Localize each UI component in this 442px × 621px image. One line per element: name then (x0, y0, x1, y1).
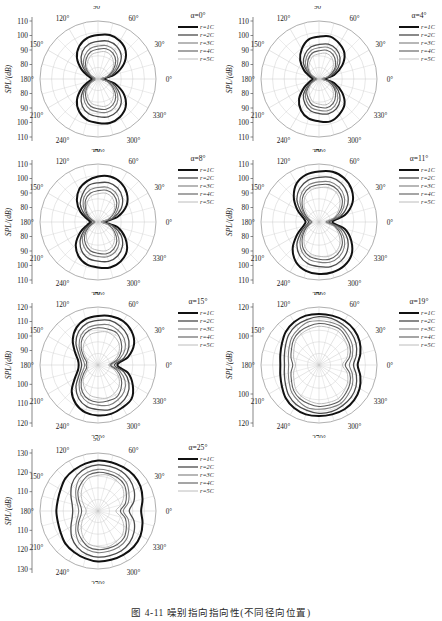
radial-tick-label: 90 (242, 104, 250, 113)
angle-tick-label: 300° (348, 280, 362, 288)
legend-label: r=2C (200, 174, 215, 181)
angle-tick-label: 0° (166, 362, 173, 370)
legend-label: r=2C (200, 31, 215, 38)
legend-label: r=3C (200, 471, 215, 478)
legend-label: r=5C (421, 55, 436, 62)
radial-tick-label: 80 (21, 60, 29, 69)
radial-tick-label: 90 (242, 189, 250, 198)
legend-label: r=1C (421, 166, 436, 173)
legend-label: r=4C (421, 47, 436, 54)
radial-tick-label: 90 (21, 104, 29, 113)
polar-grid (40, 164, 156, 280)
legend-label: r=5C (421, 198, 436, 205)
legend: r=1Cr=2Cr=3Cr=4Cr=5C (399, 23, 436, 62)
radial-tick-label: 100 (17, 31, 28, 40)
legend-label: r=3C (421, 39, 436, 46)
radial-tick-label: 90 (21, 346, 29, 355)
radial-tick-label: 120 (17, 545, 28, 554)
angle-tick-label: 330° (153, 255, 167, 263)
angle-tick-label: 120° (56, 158, 70, 166)
radial-tick-label: 120 (17, 303, 28, 312)
legend-label: r=5C (200, 198, 215, 205)
subplot-title: α=25° (189, 443, 208, 452)
subplot-title: α=11° (410, 154, 429, 163)
polar-grid (261, 307, 377, 423)
radial-tick-label: 90 (21, 46, 29, 55)
radial-tick-label: 110 (17, 526, 28, 535)
polar-plot: 0°30°60°90°120°150°180°210°240°270°300°3… (223, 6, 442, 152)
radial-tick-label: 80 (242, 89, 250, 98)
angle-tick-label: 0° (166, 76, 173, 84)
radial-tick-label: 80 (21, 203, 29, 212)
subplot-title: α=4° (411, 11, 426, 20)
radial-tick-label: 110 (17, 399, 28, 408)
angle-tick-label: 0° (387, 76, 394, 84)
angle-tick-label: 120° (56, 15, 70, 23)
legend: r=1Cr=2Cr=3Cr=4Cr=5C (178, 309, 215, 348)
legend-label: r=1C (421, 23, 436, 30)
radial-tick-label: 110 (17, 276, 28, 285)
legend-label: r=2C (421, 317, 436, 324)
angle-tick-label: 300° (127, 423, 141, 431)
radial-tick-label: 100 (238, 390, 249, 399)
angle-tick-label: 90° (93, 292, 103, 297)
legend-label: r=2C (200, 317, 215, 324)
legend-label: r=4C (421, 333, 436, 340)
legend-label: r=1C (200, 166, 215, 173)
legend-label: r=2C (421, 31, 436, 38)
y-axis-title: SPL/(dB) (4, 207, 13, 236)
data-series-group (293, 171, 353, 274)
radial-tick-label: 90 (242, 46, 250, 55)
angle-tick-label: 240° (56, 423, 70, 431)
polar-plot: 0°30°60°90°120°150°180°210°240°270°300°3… (223, 149, 442, 295)
legend-label: r=4C (200, 190, 215, 197)
angle-tick-label: 30° (154, 473, 164, 481)
radial-tick-label: 80 (21, 232, 29, 241)
radial-tick-label: 100 (238, 261, 249, 270)
angle-tick-label: 240° (56, 137, 70, 145)
radial-tick-label: 110 (17, 487, 28, 496)
legend-label: r=1C (200, 309, 215, 316)
legend-label: r=3C (421, 182, 436, 189)
angle-tick-label: 120° (277, 158, 291, 166)
polar-plot: 0°30°60°90°120°150°180°210°240°270°300°3… (2, 6, 223, 152)
angle-tick-label: 60° (128, 447, 138, 455)
angle-tick-label: 240° (277, 137, 291, 145)
angle-tick-label: 270° (312, 435, 326, 438)
angle-tick-label: 60° (128, 15, 138, 23)
legend-label: r=3C (200, 182, 215, 189)
y-axis-title: SPL/(dB) (4, 496, 13, 525)
angle-tick-label: 90° (314, 292, 324, 297)
radial-tick-label: 110 (17, 133, 28, 142)
angle-tick-label: 30° (154, 327, 164, 335)
legend-label: r=4C (200, 479, 215, 486)
radial-tick-label: 100 (238, 332, 249, 341)
radial-tick-label: 90 (242, 247, 250, 256)
subplot-title: α=19° (410, 297, 429, 306)
radial-tick-label: 90 (21, 247, 29, 256)
radial-tick-label: 110 (17, 17, 28, 26)
legend-label: r=1C (200, 455, 215, 462)
legend: r=1Cr=2Cr=3Cr=4Cr=5C (178, 23, 215, 62)
radial-tick-label: 120 (17, 419, 28, 428)
angle-tick-label: 330° (374, 398, 388, 406)
angle-tick-label: 30° (375, 41, 385, 49)
polar-chart-panel: 0°30°60°90°120°150°180°210°240°270°300°3… (2, 292, 223, 438)
radial-tick-label: 120 (17, 468, 28, 477)
radial-tick-label: 110 (17, 160, 28, 169)
polar-chart-panel: 0°30°60°90°120°150°180°210°240°270°300°3… (2, 149, 223, 295)
angle-tick-label: 0° (387, 362, 394, 370)
figure-sheet: 图 4-11 噪别指向指向性(不同径向位置) 0°30°60°90°120°15… (0, 0, 442, 621)
radial-tick-label: 100 (238, 118, 249, 127)
legend-label: r=3C (421, 325, 436, 332)
angle-tick-label: 120° (277, 15, 291, 23)
legend-label: r=1C (200, 23, 215, 30)
angle-tick-label: 300° (127, 569, 141, 577)
angle-tick-label: 60° (349, 15, 359, 23)
radial-tick-label: 110 (17, 317, 28, 326)
polar-plot: 0°30°60°90°120°150°180°210°240°270°300°3… (2, 438, 223, 584)
angle-tick-label: 330° (374, 255, 388, 263)
angle-tick-label: 300° (127, 137, 141, 145)
angle-tick-label: 60° (349, 301, 359, 309)
angle-tick-label: 90° (314, 149, 324, 154)
